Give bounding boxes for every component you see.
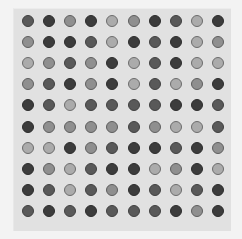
grid-dot [149,99,161,111]
grid-dot [85,15,97,27]
grid-dot [170,57,182,69]
grid-dot [212,121,224,133]
grid-dot [106,184,118,196]
grid-dot [64,205,76,217]
grid-dot [106,142,118,154]
grid-dot [85,163,97,175]
grid-dot [191,121,203,133]
dot-grid [14,9,231,231]
grid-dot [149,142,161,154]
grid-dot [85,142,97,154]
grid-dot [43,15,55,27]
grid-dot [170,205,182,217]
grid-dot [212,78,224,90]
grid-dot [149,163,161,175]
grid-dot [212,163,224,175]
grid-dot [43,57,55,69]
grid-dot [149,78,161,90]
grid-dot [128,78,140,90]
grid-dot [149,57,161,69]
grid-dot [64,78,76,90]
grid-dot [191,205,203,217]
grid-dot [106,36,118,48]
grid-dot [191,99,203,111]
grid-dot [128,99,140,111]
grid-dot [191,57,203,69]
grid-dot [106,205,118,217]
grid-dot [170,36,182,48]
grid-dot [149,15,161,27]
grid-dot [43,121,55,133]
grid-dot [212,15,224,27]
grid-dot [22,57,34,69]
grid-dot [106,121,118,133]
grid-dot [85,121,97,133]
grid-dot [43,78,55,90]
grid-dot [22,121,34,133]
grid-dot [149,205,161,217]
grid-dot [64,57,76,69]
grid-dot [212,205,224,217]
grid-dot [43,99,55,111]
grid-dot [106,163,118,175]
grid-dot [43,163,55,175]
grid-dot [212,184,224,196]
grid-dot [64,15,76,27]
grid-dot [191,36,203,48]
grid-dot [85,78,97,90]
grid-dot [191,184,203,196]
grid-dot [212,99,224,111]
grid-dot [128,57,140,69]
grid-dot [85,36,97,48]
grid-dot [191,78,203,90]
grid-dot [43,205,55,217]
grid-dot [43,142,55,154]
grid-dot [170,142,182,154]
grid-dot [149,36,161,48]
grid-dot [170,184,182,196]
grid-dot [212,142,224,154]
grid-dot [22,36,34,48]
grid-dot [191,15,203,27]
grid-dot [22,163,34,175]
grid-dot [212,57,224,69]
grid-dot [106,15,118,27]
grid-dot [170,99,182,111]
grid-dot [149,184,161,196]
grid-dot [191,142,203,154]
grid-dot [43,184,55,196]
grid-dot [64,163,76,175]
grid-dot [128,15,140,27]
grid-dot [22,142,34,154]
grid-dot [128,121,140,133]
grid-dot [149,121,161,133]
grid-dot [170,121,182,133]
grid-dot [85,205,97,217]
grid-dot [106,99,118,111]
grid-dot [170,15,182,27]
grid-dot [64,142,76,154]
grid-dot [64,184,76,196]
grid-dot [64,36,76,48]
grid-dot [22,15,34,27]
grid-dot [22,78,34,90]
grid-dot [191,163,203,175]
grid-dot [128,36,140,48]
dot-grid-panel [13,8,231,231]
grid-dot [170,78,182,90]
grid-dot [128,205,140,217]
grid-dot [64,121,76,133]
grid-dot [106,57,118,69]
grid-dot [212,36,224,48]
grid-dot [85,184,97,196]
grid-dot [64,99,76,111]
grid-dot [22,205,34,217]
grid-dot [170,163,182,175]
grid-dot [106,78,118,90]
grid-dot [22,99,34,111]
grid-dot [128,184,140,196]
grid-dot [128,142,140,154]
grid-dot [43,36,55,48]
grid-dot [85,99,97,111]
grid-dot [128,163,140,175]
